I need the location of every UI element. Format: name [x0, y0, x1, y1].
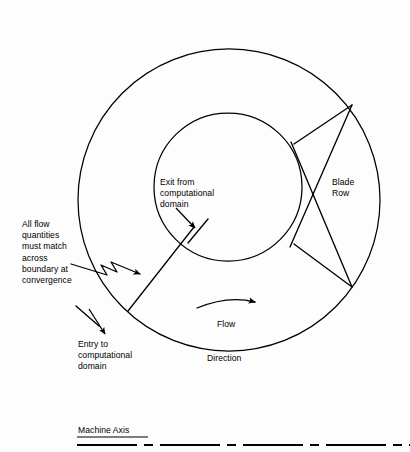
label-flow-direction: Flow Direction [207, 297, 241, 387]
convergence-zigzag-arrow [71, 262, 140, 275]
exit-arrow-shaft [176, 208, 195, 228]
label-flow-direction-line1: Flow [207, 319, 241, 330]
label-entry-to-computational-domain: Entry to computational domain [78, 339, 132, 373]
label-blade-row: Blade Row [332, 177, 354, 199]
blade-line-lower-inner [291, 142, 352, 287]
label-exit-from-computational-domain: Exit from computational domain [160, 177, 214, 211]
diagram-canvas: Exit from computational domain All flow … [0, 0, 410, 452]
label-flow-direction-line2: Direction [207, 353, 241, 364]
entry-tick-mark [76, 306, 99, 326]
computational-boundary-line [128, 227, 194, 311]
entry-arrow-shaft [89, 309, 105, 334]
label-machine-axis: Machine Axis [78, 425, 129, 436]
entry-domain-pointer [76, 306, 105, 334]
exit-domain-pointer [176, 208, 208, 243]
label-flow-quantities-boundary-note: All flow quantities must match across bo… [22, 219, 72, 286]
zigzag-arrow-path [71, 262, 140, 275]
